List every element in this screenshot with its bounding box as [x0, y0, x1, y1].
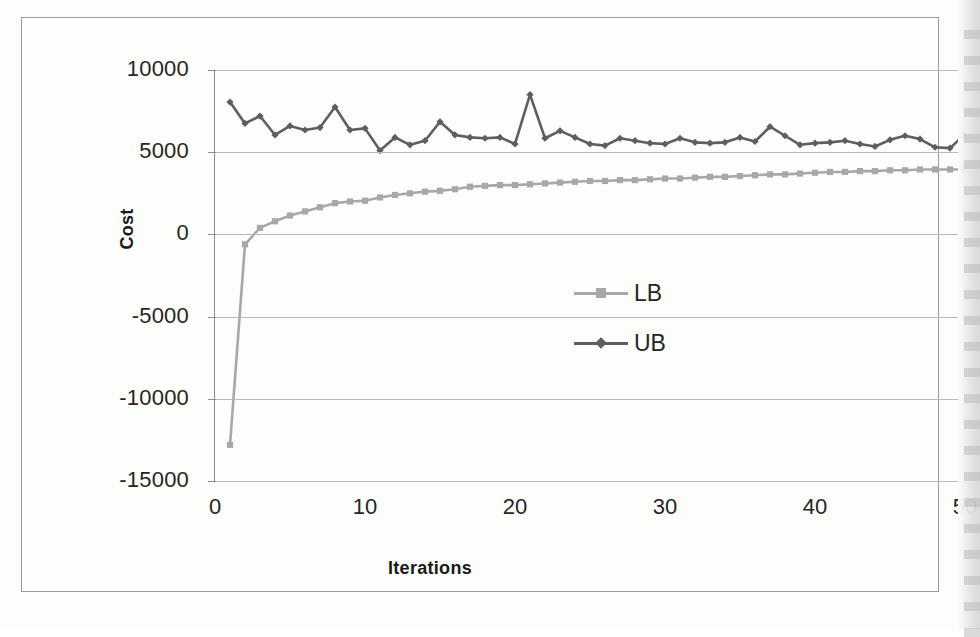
scan-noise-band — [964, 160, 980, 169]
scan-noise-band — [964, 82, 980, 91]
scan-noise-band — [964, 420, 980, 429]
data-point-marker — [347, 198, 353, 204]
data-point-marker — [782, 171, 788, 177]
data-point-marker — [362, 198, 368, 204]
scan-noise-band — [964, 602, 980, 611]
scan-noise-band — [964, 108, 980, 117]
scan-noise-band — [964, 264, 980, 273]
y-axis-tick — [208, 70, 216, 71]
data-point-marker — [947, 166, 953, 172]
scan-noise-band — [964, 290, 980, 299]
data-point-marker — [617, 177, 623, 183]
data-point-marker — [662, 175, 668, 181]
scan-noise-band — [964, 446, 980, 455]
scan-noise-band — [964, 550, 980, 559]
data-point-marker — [872, 168, 878, 174]
data-point-marker — [917, 166, 923, 172]
data-point-marker — [721, 139, 728, 146]
scan-noise-band — [964, 134, 980, 143]
scan-noise-band — [964, 524, 980, 533]
data-point-marker — [317, 204, 323, 210]
data-point-marker — [841, 137, 848, 144]
x-axis-tick-label: 0 — [209, 494, 221, 520]
series-plot — [215, 70, 965, 481]
x-axis-tick-label: 10 — [353, 494, 377, 520]
gridline — [215, 70, 965, 71]
data-point-marker — [466, 134, 473, 141]
legend-item-lb[interactable]: LB — [574, 280, 662, 306]
data-point-marker — [557, 180, 563, 186]
data-point-marker — [811, 140, 818, 147]
data-point-marker — [332, 200, 338, 206]
y-axis-tick-label: -15000 — [119, 467, 189, 493]
legend-label-ub: UB — [634, 332, 666, 355]
gridline — [215, 399, 965, 400]
legend-marker-square — [596, 288, 606, 298]
data-point-marker — [302, 208, 308, 214]
chart-frame: -15000-10000-50000500010000 01020304050 … — [21, 17, 939, 592]
data-point-marker — [481, 135, 488, 142]
y-axis-tick-label: 0 — [177, 220, 189, 246]
y-axis-tick-labels: -15000-10000-50000500010000 — [22, 70, 207, 481]
data-point-marker — [722, 174, 728, 180]
data-point-marker — [392, 192, 398, 198]
data-point-marker — [437, 188, 443, 194]
plot-area — [215, 70, 965, 481]
scan-noise-band — [964, 238, 980, 247]
scan-noise-band — [964, 394, 980, 403]
data-point-marker — [527, 181, 533, 187]
y-axis-tick-label: 10000 — [127, 56, 189, 82]
data-point-marker — [631, 137, 638, 144]
x-axis-tick-label: 40 — [803, 494, 827, 520]
data-point-marker — [707, 174, 713, 180]
x-axis-tick-labels: 01020304050 — [215, 494, 975, 530]
data-point-marker — [706, 140, 713, 147]
scan-noise-band — [964, 342, 980, 351]
y-axis-tick — [208, 399, 216, 400]
x-axis-title-text: Iterations — [388, 558, 472, 578]
data-point-marker — [287, 212, 293, 218]
data-point-marker — [857, 168, 863, 174]
y-axis-line — [214, 70, 215, 481]
data-point-marker — [736, 134, 743, 141]
data-point-marker — [842, 169, 848, 175]
chart-legend: LB UB — [574, 280, 724, 366]
x-axis-tick-label: 20 — [503, 494, 527, 520]
data-point-marker — [422, 189, 428, 195]
data-point-marker — [692, 175, 698, 181]
data-point-marker — [677, 175, 683, 181]
data-point-marker — [512, 182, 518, 188]
data-point-marker — [826, 139, 833, 146]
legend-label-lb: LB — [634, 282, 662, 305]
data-point-marker — [647, 176, 653, 182]
data-point-marker — [932, 166, 938, 172]
data-point-marker — [752, 172, 758, 178]
scan-noise-band — [964, 186, 980, 195]
series-line — [230, 95, 965, 151]
data-point-marker — [676, 135, 683, 142]
data-point-marker — [827, 169, 833, 175]
data-point-marker — [242, 241, 248, 247]
data-point-marker — [257, 225, 263, 231]
data-point-marker — [901, 132, 908, 139]
data-point-marker — [902, 167, 908, 173]
data-point-marker — [407, 190, 413, 196]
y-axis-tick — [208, 152, 216, 153]
legend-marker-diamond — [595, 337, 607, 349]
data-point-marker — [377, 194, 383, 200]
legend-swatch-lb-icon — [574, 285, 628, 301]
scan-noise-band — [964, 316, 980, 325]
x-axis-tick-label: 30 — [653, 494, 677, 520]
data-point-marker — [301, 126, 308, 133]
y-axis-tick — [208, 481, 216, 482]
data-point-marker — [497, 182, 503, 188]
y-axis-title: Cost — [117, 159, 147, 299]
data-point-marker — [856, 140, 863, 147]
y-axis-tick — [208, 234, 216, 235]
gridline — [215, 481, 965, 482]
legend-item-ub[interactable]: UB — [574, 330, 666, 356]
x-axis-title: Iterations — [22, 558, 980, 579]
data-point-marker — [691, 139, 698, 146]
gridline — [215, 234, 965, 235]
data-point-marker — [572, 179, 578, 185]
